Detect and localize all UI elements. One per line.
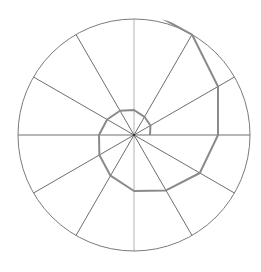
spoke-30-deg: [134, 77, 234, 135]
polar-diagram: [0, 0, 261, 272]
polar-spiral-svg: [0, 0, 261, 272]
center-point: [133, 134, 135, 136]
spoke-300-deg: [134, 135, 192, 235]
spoke-330-deg: [134, 135, 234, 193]
spoke-210-deg: [34, 135, 134, 193]
spoke-60-deg: [134, 35, 192, 135]
spoke-150-deg: [34, 77, 134, 135]
spoke-120-deg: [76, 35, 134, 135]
